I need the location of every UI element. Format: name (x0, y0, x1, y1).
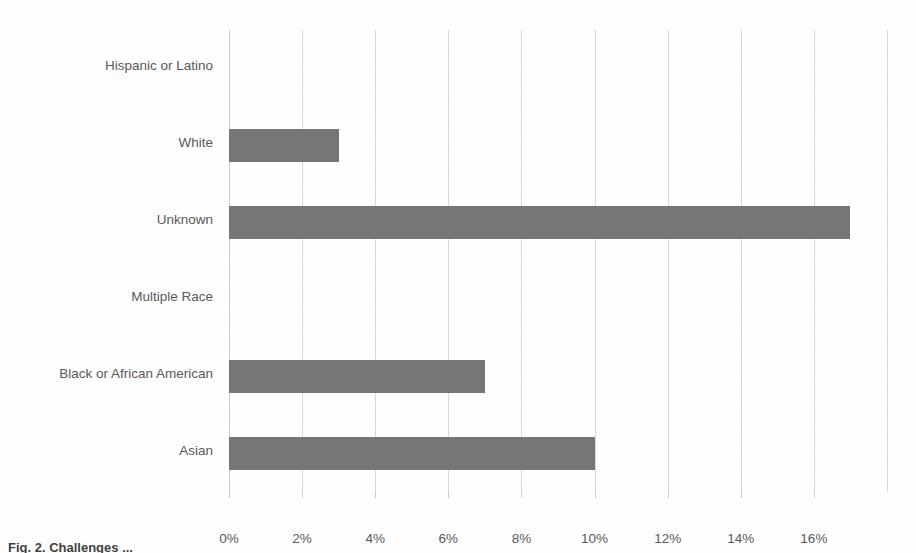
gridline-18pct (887, 30, 888, 492)
bar (229, 437, 595, 470)
tickmark-2pct (302, 492, 303, 498)
tickmark-10pct (595, 492, 596, 498)
tickmark-16pct (814, 492, 815, 498)
tickmark-4pct (375, 492, 376, 498)
bar (229, 360, 485, 393)
category-row: Black or African American (229, 338, 887, 415)
category-label: Black or African American (0, 365, 213, 383)
bar (229, 129, 339, 162)
category-row: Unknown (229, 184, 887, 261)
tickmark-0pct (229, 492, 230, 498)
category-row: Asian (229, 415, 887, 492)
bar-chart-figure: Hispanic or LatinoWhiteUnknownMultiple R… (0, 0, 916, 553)
category-label: Hispanic or Latino (0, 57, 213, 75)
tickmark-6pct (448, 492, 449, 498)
tickmark-12pct (668, 492, 669, 498)
category-label: White (0, 134, 213, 152)
category-row: Hispanic or Latino (229, 30, 887, 107)
tickmark-8pct (521, 492, 522, 498)
category-row: Multiple Race (229, 261, 887, 338)
category-label: Multiple Race (0, 288, 213, 306)
tickmark-14pct (741, 492, 742, 498)
plot-area: Hispanic or LatinoWhiteUnknownMultiple R… (229, 30, 887, 492)
figure-caption: Fig. 2. Challenges ... (8, 540, 908, 553)
bar (229, 206, 850, 239)
category-row: White (229, 107, 887, 184)
category-label: Asian (0, 442, 213, 460)
category-label: Unknown (0, 211, 213, 229)
